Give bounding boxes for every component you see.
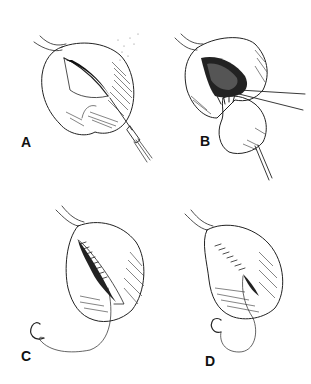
panel-d: D	[155, 192, 311, 384]
panel-b: B	[155, 0, 311, 192]
surgical-illustration-figure: A	[0, 0, 311, 384]
panel-d-drawing	[155, 192, 311, 384]
panel-label-b: B	[200, 134, 210, 148]
panel-a: A	[0, 0, 155, 192]
panel-label-c: C	[21, 349, 31, 363]
panel-b-drawing	[155, 0, 311, 192]
panel-a-drawing	[0, 0, 155, 192]
panel-label-d: D	[205, 354, 215, 368]
panel-label-a: A	[21, 135, 31, 149]
panel-c: C	[0, 192, 155, 384]
